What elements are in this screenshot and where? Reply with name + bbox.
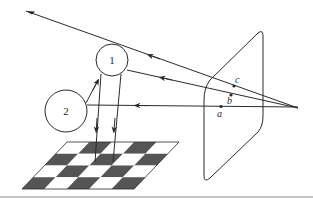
- sphere-1-label: 1: [109, 54, 115, 66]
- shadow-ray-right-arrow: [114, 118, 115, 130]
- checkerboard-floor: [22, 142, 179, 189]
- shadow-ray-left-arrow: [96, 118, 97, 130]
- ray-tracing-diagram: 1 2 c b a: [0, 0, 313, 201]
- point-b-label: b: [227, 95, 232, 106]
- ray-through-c-arrow: [150, 55, 160, 59]
- sphere-1: 1: [96, 44, 128, 76]
- ray-through-b: [127, 70, 298, 108]
- point-c-label: c: [235, 74, 240, 85]
- sphere-2-label: 2: [63, 105, 69, 117]
- ray-through-b-arrow: [162, 78, 172, 80]
- reflection-ray-arrow: [93, 82, 98, 91]
- sphere-2: 2: [45, 90, 87, 132]
- point-a-label: a: [217, 108, 222, 119]
